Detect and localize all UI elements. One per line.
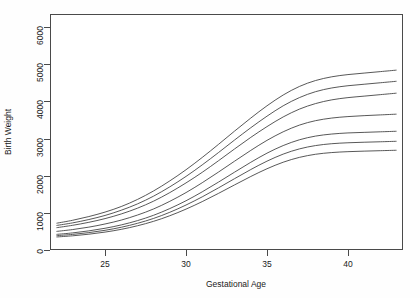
chart-title-text <box>190 0 230 1</box>
y-axis-tick-label-text: 0 <box>35 249 45 254</box>
y-axis-title: Birth Weight <box>2 0 14 264</box>
x-axis-title-text: Gestational Age <box>154 279 266 289</box>
y-axis-tick-label-text: 2000 <box>35 175 45 194</box>
x-axis-tick <box>267 250 268 256</box>
growth-curve <box>56 150 396 237</box>
growth-curve <box>56 141 396 235</box>
x-axis-tick-label: 40 <box>333 259 363 269</box>
chart-title <box>0 0 420 1</box>
growth-curve <box>56 81 396 225</box>
x-axis-tick <box>105 250 106 256</box>
x-axis-tick-label: 25 <box>90 259 120 269</box>
y-axis-tick-label-text: 4000 <box>35 100 45 119</box>
y-axis-tick-label-text: 1000 <box>35 212 45 231</box>
growth-curve <box>56 114 396 231</box>
x-axis-tick <box>348 250 349 256</box>
y-axis-tick <box>44 250 50 251</box>
x-axis-title: Gestational Age <box>0 279 420 289</box>
y-axis-tick-label-text: 5000 <box>35 63 45 82</box>
chart-figure: 0100020003000400050006000 25303540 Gesta… <box>0 0 420 298</box>
growth-curve <box>56 93 396 228</box>
x-axis-tick-label: 35 <box>252 259 282 269</box>
y-axis-title-text: Birth Weight <box>3 109 13 155</box>
x-axis-tick <box>186 250 187 256</box>
y-axis-tick-label-text: 6000 <box>35 26 45 45</box>
x-axis-tick-label: 30 <box>171 259 201 269</box>
y-axis-tick-label-text: 3000 <box>35 138 45 157</box>
curve-layer <box>50 14 403 250</box>
